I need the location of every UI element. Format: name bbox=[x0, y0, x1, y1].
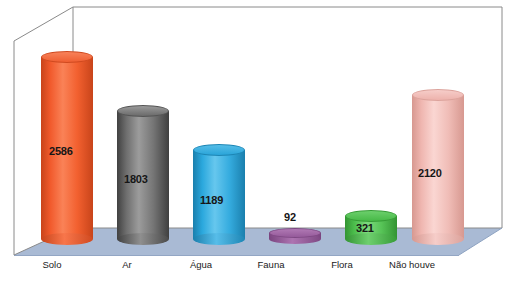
bar-fauna-value-label: 92 bbox=[284, 211, 296, 223]
bar-flora-value-label: 321 bbox=[356, 222, 374, 234]
category-label-fauna: Fauna bbox=[258, 259, 285, 270]
bar-solo-bottom-cap bbox=[41, 233, 93, 245]
bar-agua-bottom-cap bbox=[193, 233, 245, 245]
category-label-nao-houve: Não houve bbox=[389, 259, 435, 270]
bar-solo-value-label: 2586 bbox=[49, 145, 73, 157]
bar-flora-top-cap bbox=[345, 210, 397, 222]
bar-flora[interactable]: 321 bbox=[345, 216, 397, 239]
bar-ar-top-cap bbox=[117, 105, 169, 117]
category-label-ar: Ar bbox=[122, 259, 132, 270]
category-label-flora: Flora bbox=[331, 259, 353, 270]
bar-fauna-top-cap bbox=[269, 228, 321, 238]
bar-nao-houve-top-cap bbox=[412, 89, 464, 101]
bar-agua-top-cap bbox=[193, 144, 245, 156]
bar-nao-houve[interactable]: 2120 bbox=[412, 95, 464, 239]
bar-solo-top-cap bbox=[41, 51, 93, 63]
bar-agua[interactable]: 1189 bbox=[193, 150, 245, 239]
bar-flora-bottom-cap bbox=[345, 233, 397, 245]
bars-layer: 2586 1803 1189 92 321 bbox=[0, 0, 512, 284]
category-label-agua: Água bbox=[190, 259, 212, 270]
bar-nao-houve-value-label: 2120 bbox=[418, 167, 442, 179]
bar-chart: 2586 1803 1189 92 321 bbox=[0, 0, 512, 284]
category-label-solo: Solo bbox=[42, 259, 61, 270]
bar-ar-value-label: 1803 bbox=[124, 173, 148, 185]
bar-nao-houve-bottom-cap bbox=[412, 233, 464, 245]
bar-ar-bottom-cap bbox=[117, 233, 169, 245]
bar-fauna[interactable]: 92 bbox=[269, 233, 321, 239]
bar-agua-value-label: 1189 bbox=[200, 194, 223, 206]
bar-solo[interactable]: 2586 bbox=[41, 57, 93, 239]
bar-ar[interactable]: 1803 bbox=[117, 111, 169, 239]
category-axis: Solo Ar Água Fauna Flora Não houve bbox=[0, 259, 512, 284]
